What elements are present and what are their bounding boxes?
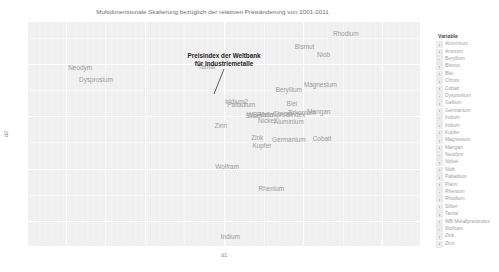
legend-key-icon [436,49,443,56]
legend-item-label: Antimon [445,50,463,55]
legend-point-icon [439,44,441,46]
legend-point-icon [439,81,441,83]
legend-item-label: Silber [445,205,458,210]
legend-item[interactable]: Nickel [436,159,496,166]
legend-item[interactable]: Wolfram [436,226,496,233]
legend-item[interactable]: Dysprosium [436,93,496,100]
legend-key-icon [436,71,443,78]
legend-point-icon [439,125,441,127]
legend-key-icon [436,93,443,100]
legend-key-icon [436,63,443,70]
legend-item[interactable]: Aluminium [436,41,496,48]
legend-key-icon [436,86,443,93]
legend-item[interactable]: Niob [436,167,496,174]
legend-item[interactable]: Bismut [436,63,496,70]
legend-item[interactable]: Blei [436,71,496,78]
legend-key-icon [436,219,443,226]
legend-item-label: Chrom [445,79,460,84]
legend-item[interactable]: Cobalt [436,85,496,92]
legend-key-icon [436,145,443,152]
legend-item-label: Platin [445,183,457,188]
legend-item-label: Gallium [445,101,462,106]
legend-point-icon [439,162,441,164]
legend-point-icon [439,147,441,149]
legend-item-label: Zinn [445,242,455,247]
legend-key-icon [436,226,443,233]
legend-key-icon [436,100,443,107]
legend-point-icon [439,66,441,68]
legend-item-label: Aluminium [445,42,468,47]
legend-key-icon [436,122,443,129]
legend-point-icon [439,221,441,223]
legend-item-label: Blei [445,72,453,77]
legend-item[interactable]: Zinn [436,241,496,248]
legend-point-icon [439,110,441,112]
legend-item[interactable]: Gallium [436,100,496,107]
legend-item-label: Beryllium [445,57,465,62]
legend-item[interactable]: Neodym [436,152,496,159]
legend-point-icon [439,118,441,120]
legend-key-icon [436,41,443,48]
legend-item-label: Mangan [445,146,463,151]
legend-item[interactable]: Chrom [436,78,496,85]
legend-item[interactable]: Palladium [436,174,496,181]
legend-point-icon [439,140,441,142]
legend-item-label: Wolfram [445,227,463,232]
legend-item[interactable]: Antimon [436,48,496,55]
legend-item[interactable]: Iridium [436,122,496,129]
legend-item[interactable]: Tantal [436,211,496,218]
legend-key-icon [436,78,443,85]
legend-item[interactable]: Magnesium [436,137,496,144]
legend-item[interactable]: Mangan [436,144,496,151]
legend-point-icon [439,214,441,216]
legend-key-icon [436,152,443,159]
legend-key-icon [436,182,443,189]
legend-key-icon [436,189,443,196]
legend-point-icon [439,192,441,194]
legend-key-icon [436,159,443,166]
legend-item[interactable]: Zink [436,233,496,240]
legend-point-icon [439,103,441,105]
legend-key-icon [436,204,443,211]
annotation-line-1: Preisindex der Weltbank [187,52,260,60]
legend-point-icon [439,132,441,134]
plot-panel: RhodiumBismutNiobNeodymTantalDysprosiumM… [28,22,420,246]
y-axis-label: d2 [3,131,9,137]
legend-item[interactable]: Germanium [436,108,496,115]
legend-key-icon [436,108,443,115]
legend-item[interactable]: Indium [436,115,496,122]
legend-point-icon [439,169,441,171]
legend-item[interactable]: Rhenium [436,189,496,196]
legend-items: AluminiumAntimonBerylliumBismutBleiChrom… [436,41,496,248]
legend-item-label: Bismut [445,64,460,69]
legend-item-label: Rhenium [445,190,465,195]
legend-key-icon [436,211,443,218]
legend-key-icon [436,233,443,240]
legend: Variable AluminiumAntimonBerylliumBismut… [436,33,496,248]
legend-point-icon [439,177,441,179]
legend-title: Variable [438,33,496,39]
legend-item-label: Germanium [445,109,471,114]
legend-item-label: Kupfer [445,131,459,136]
legend-item-label: Cobalt [445,87,459,92]
legend-point-icon [439,73,441,75]
legend-item-label: Magnesium [445,138,470,143]
legend-item[interactable]: Silber [436,204,496,211]
chart-root: Multidimensionale Skalierung bezüglich d… [0,0,499,272]
legend-item-label: Tantal [445,212,458,217]
legend-item[interactable]: Platin [436,181,496,188]
legend-key-icon [436,167,443,174]
legend-point-icon [439,184,441,186]
legend-point-icon [439,88,441,90]
chart-title: Multidimensionale Skalierung bezüglich d… [0,8,425,15]
legend-item[interactable]: Kupfer [436,130,496,137]
legend-key-icon [436,241,443,248]
legend-item[interactable]: Rhodium [436,196,496,203]
legend-point-icon [439,236,441,238]
legend-item-label: Iridium [445,124,460,129]
legend-item[interactable]: Beryllium [436,56,496,63]
legend-item[interactable]: WB Metallpreisindex [436,218,496,225]
legend-key-icon [436,56,443,63]
annotation-text: Preisindex der Weltbank für Industriemet… [187,52,260,68]
legend-point-icon [439,155,441,157]
